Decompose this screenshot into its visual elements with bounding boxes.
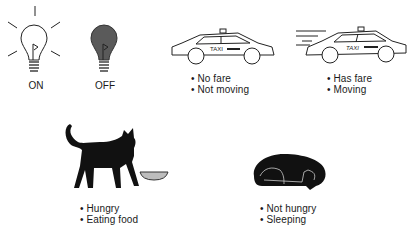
svg-text:TAXI: TAXI <box>346 45 359 51</box>
taxi-moving-icon: TAXI <box>296 25 408 67</box>
cat-sleeping-caption: Not hungry Sleeping <box>260 203 316 225</box>
taxi-parked-icon: TAXI <box>170 25 276 67</box>
bullet-item: No fare <box>191 73 249 84</box>
bullet-item: Hungry <box>80 203 138 214</box>
bulb-off-label: OFF <box>92 80 118 91</box>
cat-eating-icon <box>60 122 170 192</box>
svg-text:TAXI: TAXI <box>210 46 223 52</box>
cat-sleeping-icon <box>250 152 330 192</box>
taxi-parked-caption: No fare Not moving <box>191 73 249 95</box>
cat-eating-caption: Hungry Eating food <box>80 203 138 225</box>
bullet-item: Sleeping <box>260 214 316 225</box>
taxi-moving-caption: Has fare Moving <box>327 73 372 95</box>
bullet-item: Not hungry <box>260 203 316 214</box>
bulb-on-label: ON <box>24 80 48 91</box>
bullet-item: Moving <box>327 84 372 95</box>
bullet-item: Not moving <box>191 84 249 95</box>
lightbulb-off-icon <box>70 0 130 80</box>
bullet-item: Eating food <box>80 214 138 225</box>
lightbulb-on-icon <box>0 0 60 80</box>
bullet-item: Has fare <box>327 73 372 84</box>
